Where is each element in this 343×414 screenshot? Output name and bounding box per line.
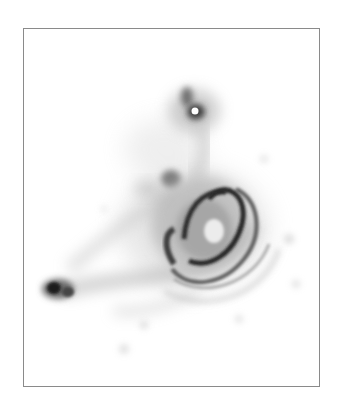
image-frame <box>23 28 320 387</box>
tail-knot <box>42 279 74 299</box>
galaxy-image <box>24 29 320 387</box>
companion-nucleus <box>192 108 199 115</box>
